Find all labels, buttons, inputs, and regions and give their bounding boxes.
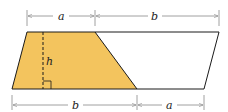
top-a-label: a bbox=[58, 10, 65, 23]
top-b-label: b bbox=[151, 10, 158, 23]
trapezoid-area-diagram: h a b b a bbox=[0, 0, 228, 112]
shaded-trapezoid bbox=[12, 32, 137, 89]
diagram-svg: h a b b a bbox=[0, 0, 228, 112]
bottom-b-label: b bbox=[72, 99, 79, 112]
height-label: h bbox=[46, 55, 53, 68]
bottom-a-label: a bbox=[166, 99, 173, 112]
